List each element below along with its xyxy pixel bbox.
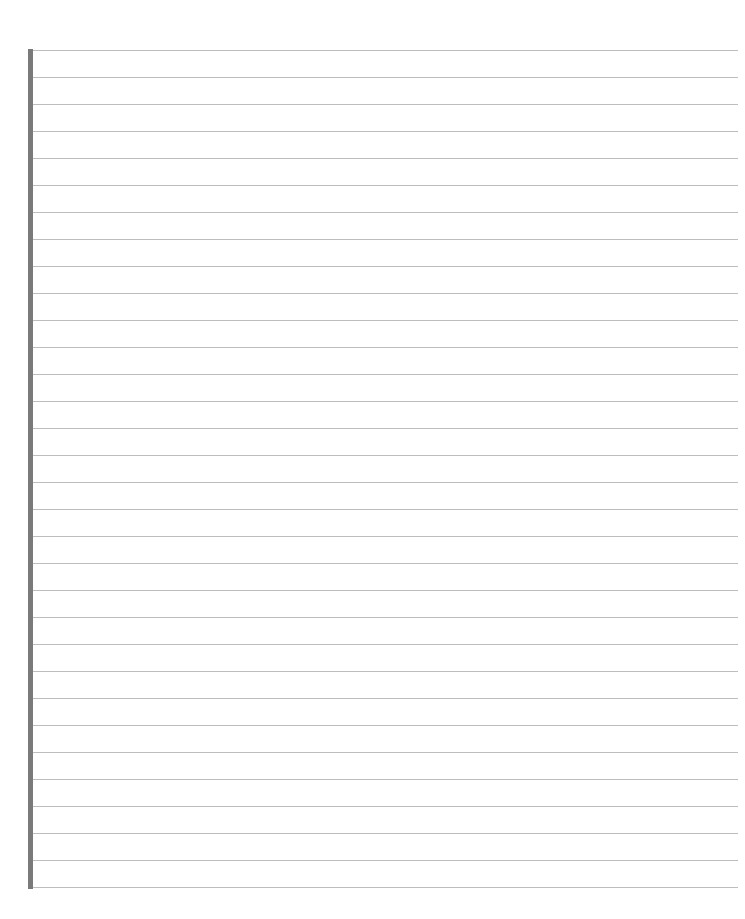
rule-line [33, 455, 738, 456]
rule-line [33, 50, 738, 51]
rule-line [33, 509, 738, 510]
rule-line [33, 104, 738, 105]
rule-line [33, 806, 738, 807]
rule-line [33, 212, 738, 213]
rule-line [33, 833, 738, 834]
rule-line [33, 185, 738, 186]
rule-line [33, 374, 738, 375]
rule-line [33, 347, 738, 348]
rule-line [33, 725, 738, 726]
rule-line [33, 158, 738, 159]
rule-line [33, 644, 738, 645]
rule-line [33, 590, 738, 591]
rule-line [33, 563, 738, 564]
margin-bar [28, 49, 33, 889]
rule-line [33, 401, 738, 402]
rule-line [33, 482, 738, 483]
rule-line [33, 887, 738, 888]
rule-line [33, 266, 738, 267]
rule-line [33, 698, 738, 699]
rule-line [33, 320, 738, 321]
notebook-page [0, 0, 745, 919]
rule-line [33, 617, 738, 618]
rule-line [33, 536, 738, 537]
rule-line [33, 779, 738, 780]
rule-line [33, 131, 738, 132]
rule-line [33, 77, 738, 78]
rule-line [33, 293, 738, 294]
rule-line [33, 428, 738, 429]
rule-line [33, 671, 738, 672]
rule-line [33, 860, 738, 861]
rule-line [33, 752, 738, 753]
rule-line [33, 239, 738, 240]
